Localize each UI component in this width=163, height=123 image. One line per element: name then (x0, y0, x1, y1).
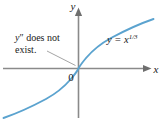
svg-text:y = x1/3: y = x1/3 (106, 33, 138, 45)
second-derivative-annotation: y″ does not exist. (14, 32, 60, 55)
curve-equation-label: y = x1/3 (106, 33, 138, 45)
annotation-line1-rest: does not (24, 32, 60, 43)
svg-text:y″ does not: y″ does not (14, 32, 60, 43)
y-axis-label: y (70, 0, 76, 12)
cube-root-function-figure: y x 0 y = x1/3 y″ does not exist. (0, 0, 163, 123)
annotation-leader-line (47, 51, 76, 66)
y-axis-arrowhead (75, 8, 82, 17)
x-axis-arrowhead (143, 65, 152, 72)
x-axis-label: x (153, 63, 159, 75)
origin-label: 0 (68, 71, 74, 83)
annotation-line2: exist. (15, 44, 36, 55)
curve-equation-lhs: y = (106, 34, 124, 45)
curve-equation-exponent: 1/3 (129, 33, 138, 41)
